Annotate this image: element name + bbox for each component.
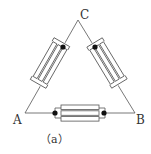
resistor-bank-a-b — [55, 103, 105, 123]
resistor-bank-c-b — [85, 36, 128, 89]
figure-caption: （a） — [40, 134, 69, 145]
node-label-a: A — [13, 114, 22, 126]
node-label-b: B — [136, 114, 145, 126]
junction-dot-bottom-right — [101, 110, 106, 115]
junction-dot-left — [60, 44, 65, 49]
junction-dot-right — [92, 44, 97, 49]
delta-circuit-diagram — [0, 0, 151, 154]
resistor-bank-a-c — [29, 36, 71, 89]
node-label-c: C — [80, 9, 89, 21]
junction-dot-bottom-left — [52, 110, 57, 115]
